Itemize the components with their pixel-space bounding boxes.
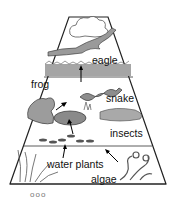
- label-snake: snake: [106, 93, 134, 104]
- pyramid-diagram: [0, 0, 175, 202]
- footer-marks: ooo: [30, 190, 46, 199]
- label-frog: frog: [31, 79, 49, 90]
- label-algae: algae: [91, 174, 117, 185]
- label-insects: insects: [110, 128, 143, 139]
- grass-band: [45, 64, 131, 76]
- label-water-plants: water plants: [47, 159, 104, 170]
- label-eagle: eagle: [92, 55, 118, 66]
- frog-icon: [28, 98, 55, 124]
